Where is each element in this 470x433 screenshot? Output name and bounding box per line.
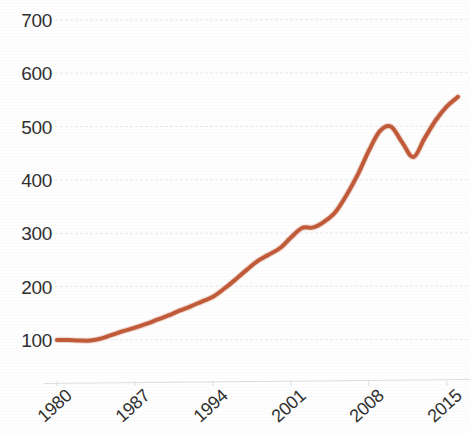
data-series-line [57,97,458,341]
gridline [50,19,470,20]
gridline [50,286,470,287]
plot-area [0,0,470,433]
series-line [57,97,458,341]
gridline [50,179,470,180]
line-chart: 100200300400500600700 198019871994200120… [0,0,470,433]
axis-lines [44,380,470,387]
x-axis-line [44,380,470,384]
gridline [50,126,470,127]
chart-canvas [0,0,470,433]
gridlines [50,19,470,340]
gridline [50,73,470,74]
gridline [50,339,470,340]
gridline [50,233,470,234]
